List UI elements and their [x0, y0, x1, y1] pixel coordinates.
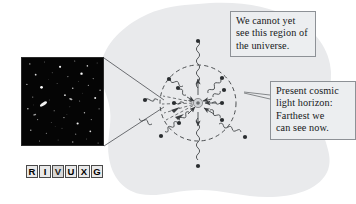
- figure-canvas: R I V U X G We cannot yet see this regio…: [0, 0, 356, 204]
- rivuxg-wavelength-bar: R I V U X G: [26, 165, 104, 178]
- callout-horizon-line-4: can see now.: [276, 122, 350, 134]
- callout-unseen-line-2: see this region of: [236, 27, 310, 39]
- rivuxg-cell-x: X: [78, 165, 90, 178]
- callout-horizon-line-1: Present cosmic: [276, 85, 350, 97]
- callout-unseen-line-1: We cannot yet: [236, 15, 310, 27]
- callout-horizon-line-3: Farthest we: [276, 110, 350, 122]
- observer-point: [193, 98, 202, 107]
- callout-horizon-line-2: light horizon:: [276, 97, 350, 109]
- rivuxg-cell-r: R: [26, 165, 38, 178]
- deep-field-image: [21, 57, 104, 146]
- callout-unseen-line-3: the universe.: [236, 40, 310, 52]
- rivuxg-cell-u: U: [65, 165, 77, 178]
- rivuxg-cell-v: V: [52, 165, 64, 178]
- rivuxg-cell-g: G: [91, 165, 103, 178]
- callout-light-horizon: Present cosmic light horizon: Farthest w…: [270, 81, 356, 140]
- rivuxg-cell-i: I: [39, 165, 51, 178]
- deep-field-stars: [22, 58, 103, 145]
- callout-unseen-region: We cannot yet see this region of the uni…: [230, 11, 316, 57]
